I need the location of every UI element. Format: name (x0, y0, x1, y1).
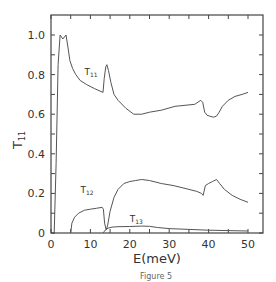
transmission-chart: 01020304050 00.20.40.60.81.0 T11T12T13 E… (0, 0, 276, 282)
svg-text:T11: T11 (10, 131, 27, 150)
y-axis-title-subscript: 11 (18, 131, 27, 141)
y-tick-label: 0.4 (28, 148, 46, 161)
x-tick-label: 10 (83, 238, 97, 251)
data-series (51, 35, 248, 233)
series-line-t13 (103, 226, 248, 233)
series-line-t11 (51, 35, 248, 233)
series-label-t12: T12 (80, 185, 94, 196)
x-tick-label: 20 (123, 238, 137, 251)
x-tick-labels: 01020304050 (48, 238, 256, 251)
y-tick-label: 0.6 (28, 108, 46, 121)
x-tick-label: 50 (241, 238, 255, 251)
y-tick-label: 0.2 (28, 187, 46, 200)
y-tick-label: 0.8 (28, 69, 46, 82)
series-label-t11: T11 (83, 67, 97, 78)
y-tick-label: 0 (38, 227, 45, 240)
axis-ticks (51, 15, 263, 233)
x-axis-title: E(meV) (133, 251, 181, 266)
figure-caption: Figure 5 (140, 272, 172, 281)
series-line-t12 (71, 180, 248, 234)
x-tick-label: 40 (202, 238, 216, 251)
y-tick-label: 1.0 (28, 29, 46, 42)
y-tick-labels: 00.20.40.60.81.0 (28, 29, 46, 240)
x-tick-label: 0 (48, 238, 55, 251)
x-tick-label: 30 (162, 238, 176, 251)
series-label-t13: T13 (129, 214, 143, 225)
series-labels: T11T12T13 (80, 67, 144, 226)
plot-frame (51, 15, 263, 233)
y-axis-title: T11 (10, 131, 27, 150)
plot-border (51, 15, 263, 233)
y-axis-title-main: T (10, 141, 25, 150)
